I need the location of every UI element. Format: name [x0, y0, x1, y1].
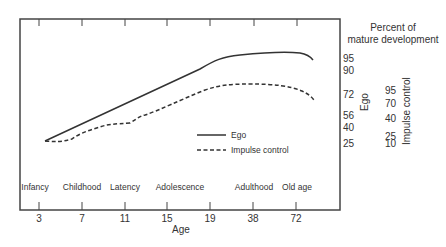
svg-text:10: 10 — [385, 138, 397, 149]
x-tick: 72 — [290, 213, 302, 224]
chart: 3 7 11 15 19 38 72 Age Infancy Childhood… — [0, 0, 446, 247]
stage-label: Childhood — [63, 182, 102, 192]
x-axis-label: Age — [172, 224, 190, 235]
ego-axis-ticks: 95 90 72 56 40 25 — [343, 53, 355, 149]
stage-label: Old age — [282, 182, 312, 192]
svg-text:40: 40 — [385, 113, 397, 124]
x-tick: 7 — [79, 213, 85, 224]
x-tick: 15 — [161, 213, 173, 224]
x-tick-labels: 3 7 11 15 19 38 72 — [36, 213, 302, 224]
svg-text:95: 95 — [343, 53, 355, 64]
ego-axis-label: Ego — [359, 93, 370, 111]
stage-label: Adulthood — [235, 182, 274, 192]
x-tick: 3 — [36, 213, 42, 224]
stage-label: Adolescence — [156, 182, 205, 192]
legend-impulse-label: Impulse control — [231, 145, 289, 155]
impulse-axis-ticks: 95 70 40 25 10 — [385, 85, 397, 149]
svg-text:70: 70 — [385, 98, 397, 109]
legend-ego-label: Ego — [231, 130, 246, 140]
svg-text:56: 56 — [343, 110, 355, 121]
svg-text:Percent of: Percent of — [370, 22, 416, 33]
impulse-control-line — [45, 84, 314, 142]
right-axis-title: Percent of mature development — [347, 22, 438, 45]
svg-text:72: 72 — [343, 89, 355, 100]
stage-label: Latency — [110, 182, 141, 192]
stage-label: Infancy — [21, 182, 49, 192]
legend: Ego Impulse control — [197, 130, 289, 155]
bottom-ticks — [39, 202, 296, 210]
svg-text:mature development: mature development — [347, 34, 438, 45]
svg-text:40: 40 — [343, 122, 355, 133]
top-ticks — [39, 19, 297, 26]
x-tick: 11 — [120, 213, 131, 224]
stage-labels: Infancy Childhood Latency Adolescence Ad… — [21, 182, 312, 192]
svg-text:25: 25 — [343, 138, 355, 149]
ego-line — [45, 52, 313, 141]
x-tick: 38 — [247, 213, 259, 224]
svg-text:95: 95 — [385, 85, 397, 96]
impulse-axis-label: Impulse control — [401, 77, 412, 145]
svg-text:90: 90 — [343, 65, 355, 76]
x-tick: 19 — [204, 213, 216, 224]
